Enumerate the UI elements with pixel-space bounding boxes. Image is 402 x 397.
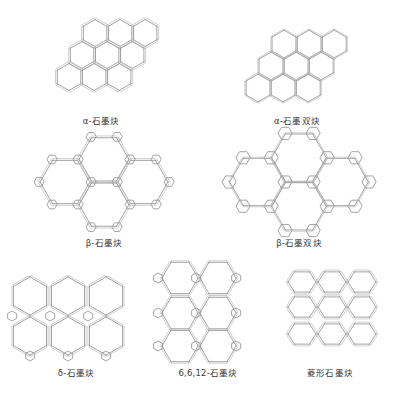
- label-delta-graphyne: δ-石墨炔: [58, 366, 94, 378]
- beta-graphdiyne-structure: [201, 140, 402, 240]
- 6612-graphyne-structure: [130, 262, 270, 362]
- label-beta-graphdiyne: β-石墨双炔: [276, 236, 322, 248]
- label-rhombic-graphyne: 菱形石墨炔: [307, 366, 353, 378]
- rhombic-graphyne-structure: [262, 262, 402, 362]
- panel-beta-graphdiyne: β-石墨双炔: [201, 140, 402, 260]
- panel-6612-graphyne: 6,6,12-石墨炔: [130, 262, 270, 397]
- label-alpha-graphyne: α-石墨炔: [83, 114, 120, 126]
- alpha-graphdiyne-structure: [201, 0, 402, 110]
- alpha-graphyne-structure: [0, 0, 201, 110]
- panel-rhombic-graphyne: 菱形石墨炔: [262, 262, 402, 397]
- delta-graphyne-structure: [0, 262, 140, 362]
- panel-beta-graphyne: β-石墨炔: [0, 140, 201, 260]
- label-beta-graphyne: β-石墨炔: [86, 236, 123, 248]
- beta-graphyne-structure: [0, 140, 201, 240]
- label-6612-graphyne: 6,6,12-石墨炔: [178, 366, 237, 378]
- label-alpha-graphdiyne: α-石墨双炔: [274, 114, 320, 126]
- panel-alpha-graphdiyne: α-石墨双炔: [201, 0, 402, 135]
- panel-delta-graphyne: δ-石墨炔: [0, 262, 140, 397]
- panel-alpha-graphyne: α-石墨炔: [0, 0, 201, 135]
